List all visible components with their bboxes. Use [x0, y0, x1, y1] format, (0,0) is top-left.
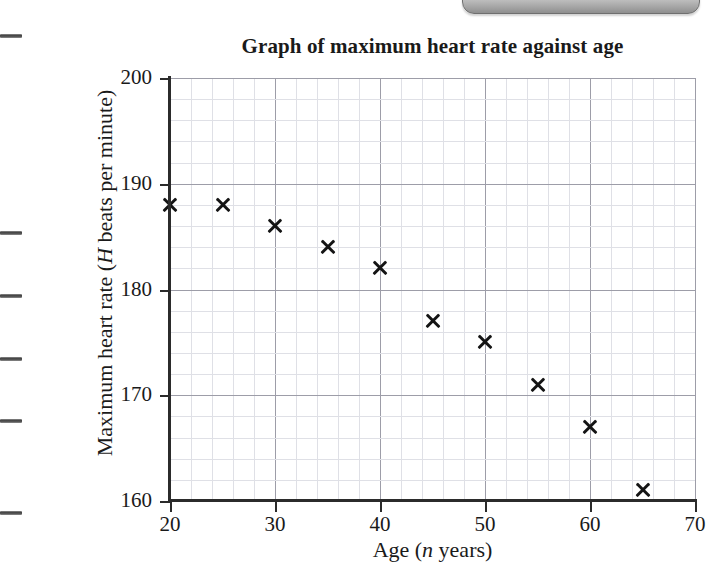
- x-axis-line: [168, 499, 697, 502]
- grid-line-minor-horizontal: [170, 99, 695, 100]
- grid-line-minor-horizontal: [170, 416, 695, 417]
- data-point: [318, 237, 338, 257]
- page-corner-tab: [462, 0, 700, 14]
- x-axis-tick: [695, 502, 697, 512]
- page-margin-dash: [0, 294, 22, 298]
- page-margin-dash: [0, 34, 22, 38]
- grid-line-major-horizontal: [170, 290, 695, 291]
- grid-line-major-horizontal: [170, 78, 695, 79]
- data-point: [423, 311, 443, 331]
- x-axis-tick-label: 60: [565, 514, 615, 535]
- x-axis-tick: [485, 502, 487, 512]
- grid-line-minor-horizontal: [170, 353, 695, 354]
- grid-line-major-vertical: [695, 78, 696, 501]
- page-margin-marks: [0, 0, 30, 559]
- grid-line-minor-horizontal: [170, 374, 695, 375]
- grid-line-minor-horizontal: [170, 120, 695, 121]
- x-axis-title: Age (n years): [170, 537, 695, 563]
- grid-line-minor-horizontal: [170, 268, 695, 269]
- grid-line-minor-horizontal: [170, 332, 695, 333]
- x-axis-tick-label: 30: [250, 514, 300, 535]
- y-axis-tick: [160, 78, 170, 80]
- x-axis-tick: [380, 502, 382, 512]
- x-axis-tick-label: 20: [145, 514, 195, 535]
- data-point: [528, 375, 548, 395]
- y-axis-tick: [160, 395, 170, 397]
- x-axis-tick-label: 50: [460, 514, 510, 535]
- plot-area: [170, 78, 695, 501]
- axis-title-variable: H: [92, 248, 117, 264]
- x-axis-tick-label: 70: [670, 514, 710, 535]
- grid-line-minor-horizontal: [170, 163, 695, 164]
- grid-line-minor-horizontal: [170, 438, 695, 439]
- y-axis-tick: [160, 290, 170, 292]
- page-margin-dash: [0, 357, 22, 361]
- chart-title: Graph of maximum heart rate against age: [170, 34, 695, 59]
- y-axis-title-wrapper: Maximum heart rate (H beats per minute): [92, 58, 122, 488]
- page-margin-dash: [0, 231, 22, 235]
- y-axis-tick: [160, 184, 170, 186]
- page-margin-dash: [0, 419, 22, 423]
- axis-title-variable: n: [422, 537, 433, 562]
- data-point: [633, 480, 653, 500]
- scatter-chart: Graph of maximum heart rate against age …: [40, 16, 710, 566]
- data-point: [265, 216, 285, 236]
- x-axis-tick: [590, 502, 592, 512]
- data-point: [370, 258, 390, 278]
- y-axis-tick-label: 160: [108, 490, 152, 511]
- grid-line-minor-horizontal: [170, 226, 695, 227]
- grid-line-minor-horizontal: [170, 205, 695, 206]
- x-axis-tick: [170, 502, 172, 512]
- data-point: [213, 195, 233, 215]
- data-point: [580, 417, 600, 437]
- y-axis-tick: [160, 501, 170, 503]
- grid-line-minor-horizontal: [170, 459, 695, 460]
- x-axis-tick: [275, 502, 277, 512]
- page-margin-dash: [0, 511, 22, 515]
- grid-line-major-horizontal: [170, 184, 695, 185]
- data-point: [475, 332, 495, 352]
- grid-line-major-horizontal: [170, 395, 695, 396]
- grid-line-minor-horizontal: [170, 141, 695, 142]
- grid-line-minor-horizontal: [170, 247, 695, 248]
- grid-line-minor-horizontal: [170, 480, 695, 481]
- y-axis-title: Maximum heart rate (H beats per minute): [92, 58, 118, 488]
- x-axis-tick-label: 40: [355, 514, 405, 535]
